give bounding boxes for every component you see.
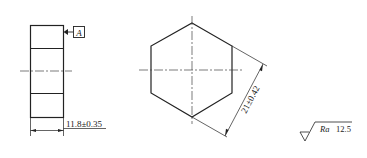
side-view-outline <box>31 26 64 118</box>
datum-triangle-icon <box>64 29 69 35</box>
side-view: A 11.8±0.35 <box>20 26 106 137</box>
width-dimension: 11.8±0.35 <box>31 118 107 136</box>
front-view: 21±0.42 <box>139 16 267 137</box>
datum-label: A <box>75 28 82 38</box>
roughness-value: 12.5 <box>336 124 351 134</box>
width-dimension-label: 11.8±0.35 <box>66 119 103 129</box>
datum-feature-symbol: A <box>64 27 85 38</box>
across-flats-dimension: 21±0.42 <box>192 46 267 137</box>
surface-finish-symbol: Ra 12.5 <box>300 122 352 141</box>
across-flats-dimension-label: 21±0.42 <box>239 84 262 115</box>
roughness-parameter: Ra <box>319 124 329 134</box>
technical-drawing: A 11.8±0.35 21±0.42 Ra <box>0 0 367 158</box>
